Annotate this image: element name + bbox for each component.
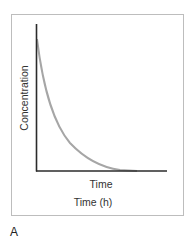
x-axis-unit-label: Time (h) (74, 196, 113, 208)
x-axis-label: Time (90, 178, 113, 190)
decay-curve (37, 39, 137, 171)
y-axis-label: Concentration (18, 65, 30, 130)
panel-label: A (10, 225, 18, 239)
